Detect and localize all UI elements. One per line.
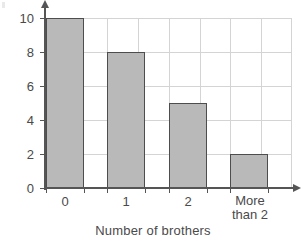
y-tick-label-4: 4 xyxy=(4,113,34,128)
y-tick-label-8: 8 xyxy=(4,45,34,60)
x-tick-mark-0a xyxy=(46,188,47,193)
bar-chart: Frequency 0 2 4 6 8 10 xyxy=(0,0,306,242)
bar-0[interactable] xyxy=(46,18,84,188)
gridline-v-8 xyxy=(291,18,292,188)
x-tick-label-2: 2 xyxy=(168,195,208,209)
x-tick-label-more-than-2: More than 2 xyxy=(222,194,278,222)
x-tick-label-0: 0 xyxy=(45,195,85,209)
x-tick-label-1: 1 xyxy=(106,195,146,209)
x-tick-mark-3b xyxy=(268,188,269,193)
x-tick-mark-1a xyxy=(107,188,108,193)
corner-artifact xyxy=(2,2,5,8)
y-tick-label-0: 0 xyxy=(4,181,34,196)
x-tick-mark-2a xyxy=(169,188,170,193)
x-tick-mark-0b xyxy=(84,188,85,193)
x-axis-title: Number of brothers xyxy=(0,223,306,238)
y-axis-arrow-icon xyxy=(41,0,49,8)
y-tick-label-10: 10 xyxy=(4,11,34,26)
plot-area xyxy=(46,18,292,188)
y-tick-label-2: 2 xyxy=(4,147,34,162)
bar-2[interactable] xyxy=(169,103,207,188)
x-tick-mark-1b xyxy=(145,188,146,193)
x-tick-mark-3a xyxy=(230,188,231,193)
x-axis-arrow-icon xyxy=(293,184,301,192)
x-tick-label-more-line2: than 2 xyxy=(222,208,278,222)
x-tick-label-more-line1: More xyxy=(222,194,278,208)
x-tick-mark-2b xyxy=(207,188,208,193)
y-tick-label-6: 6 xyxy=(4,79,34,94)
y-axis-line xyxy=(44,6,46,190)
bar-1[interactable] xyxy=(107,52,145,188)
bar-more-than-2[interactable] xyxy=(230,154,268,188)
